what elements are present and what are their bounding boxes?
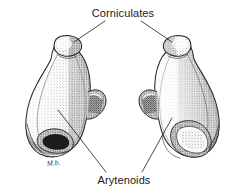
label-corniculates: Corniculates <box>92 7 155 19</box>
artist-signature: M.b. <box>45 158 61 169</box>
label-arytenoids: Arytenoids <box>98 174 151 186</box>
illustration-canvas: M.b. <box>0 0 246 193</box>
anatomical-figure: M.b. <box>0 0 246 193</box>
